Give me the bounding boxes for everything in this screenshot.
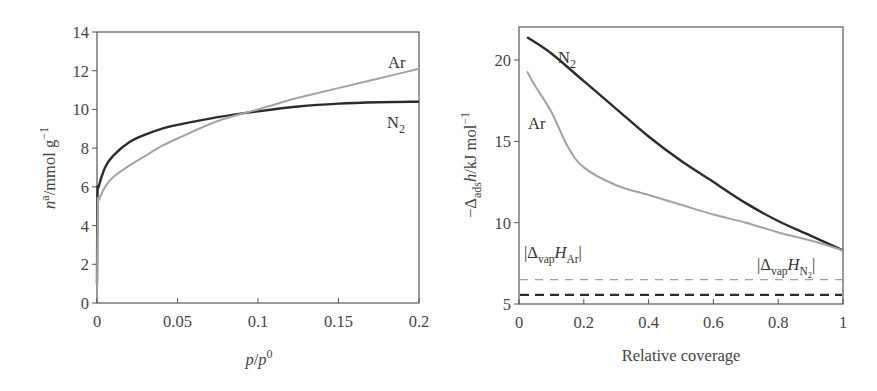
x-tick-label: 0.6 [703, 313, 724, 332]
x-tick-label: 0.4 [638, 313, 659, 332]
right-y-ticks: 5101520 [495, 51, 520, 314]
x-tick-label: 0 [515, 313, 523, 332]
x-tick-label: 0.2 [409, 312, 430, 331]
x-tick-label: 0.1 [248, 312, 269, 331]
y-tick-label: 8 [81, 139, 89, 158]
y-tick-label: 4 [81, 217, 89, 236]
x-tick-label: 0.8 [768, 313, 789, 332]
left-label-n2: N2 [387, 113, 405, 136]
left-plot-frame [97, 32, 419, 303]
series-ar-curve [97, 69, 419, 284]
right-label-ar: Ar [528, 114, 546, 133]
x-tick-label: 0.05 [163, 312, 192, 331]
y-tick-label: 10 [73, 100, 90, 119]
adsorption-enthalpy-chart: 5101520 00.20.40.60.81 N2 Ar |ΔvapHAr| |… [458, 27, 847, 365]
x-tick-label: 1 [839, 313, 847, 332]
y-tick-label: 5 [503, 295, 511, 314]
annotation-vap-n2: |ΔvapHN2| [757, 255, 815, 280]
left-x-axis-label: p/p0 [244, 347, 272, 369]
y-tick-label: 12 [73, 62, 90, 81]
y-tick-label: 20 [495, 51, 512, 70]
left-y-ticks: 02468101214 [73, 23, 98, 313]
x-tick-label: 0 [93, 312, 101, 331]
annotation-vap-ar: |ΔvapHAr| [524, 243, 582, 266]
series-n2-curve [97, 102, 419, 284]
left-y-axis-label: na/mmol g−1 [37, 127, 59, 209]
y-tick-label: 0 [81, 294, 89, 313]
series-ar-curve [527, 71, 843, 250]
y-tick-label: 6 [81, 178, 89, 197]
right-x-axis-label: Relative coverage [622, 346, 741, 365]
x-tick-label: 0.15 [324, 312, 353, 331]
y-tick-label: 10 [495, 214, 512, 233]
adsorption-isotherm-chart: 02468101214 00.050.10.150.2 Ar N2 na/mmo… [37, 23, 429, 369]
left-label-ar: Ar [388, 53, 406, 72]
x-tick-label: 0.2 [573, 313, 594, 332]
left-series [97, 69, 419, 284]
y-tick-label: 14 [73, 23, 90, 42]
figure: 02468101214 00.050.10.150.2 Ar N2 na/mmo… [0, 0, 877, 391]
y-tick-label: 15 [495, 132, 512, 151]
y-tick-label: 2 [81, 255, 89, 274]
right-y-axis-label: −Δadsh/kJ mol−1 [458, 112, 484, 218]
